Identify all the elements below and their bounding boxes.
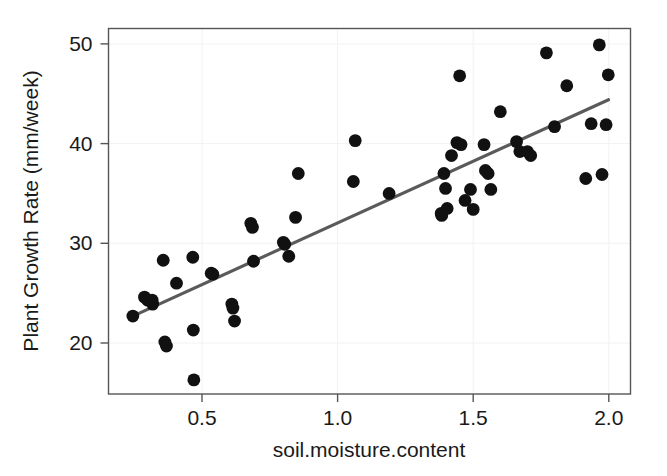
data-point: [186, 251, 199, 264]
data-point: [548, 120, 561, 133]
data-point: [187, 373, 200, 386]
y-tick-label: 30: [69, 231, 92, 254]
x-tick-label: 0.5: [187, 406, 216, 429]
x-axis-title: soil.moisture.content: [273, 438, 466, 461]
data-point: [445, 149, 458, 162]
data-point: [349, 134, 362, 147]
data-point: [278, 238, 291, 251]
data-point: [441, 202, 454, 215]
x-tick-label: 2.0: [594, 406, 623, 429]
data-point: [227, 302, 240, 315]
y-tick-label: 50: [69, 32, 92, 55]
plot-canvas: 0.51.01.52.0 20304050 soil.moisture.cont…: [0, 0, 667, 476]
data-point: [494, 105, 507, 118]
data-point: [438, 167, 451, 180]
data-point: [126, 310, 139, 323]
data-point: [602, 68, 615, 81]
data-point: [347, 175, 360, 188]
data-point: [464, 183, 477, 196]
data-point: [187, 324, 200, 337]
data-point: [540, 46, 553, 59]
data-point: [289, 211, 302, 224]
data-point: [600, 118, 613, 131]
x-tick-label: 1.0: [323, 406, 352, 429]
figure-background: [0, 0, 667, 476]
data-point: [524, 149, 537, 162]
data-point: [579, 172, 592, 185]
data-point: [228, 315, 241, 328]
data-point: [467, 203, 480, 216]
data-point: [146, 298, 159, 311]
data-point: [560, 79, 573, 92]
data-point: [170, 277, 183, 290]
data-point: [247, 255, 260, 268]
data-point: [292, 167, 305, 180]
data-point: [160, 340, 173, 353]
data-point: [478, 138, 491, 151]
data-point: [455, 138, 468, 151]
y-axis-title: Plant Growth Rate (mm/week): [19, 70, 42, 351]
data-point: [157, 254, 170, 267]
data-point: [453, 69, 466, 82]
data-point: [593, 39, 606, 52]
data-point: [484, 183, 497, 196]
data-point: [383, 187, 396, 200]
data-point: [482, 167, 495, 180]
data-point: [585, 117, 598, 130]
x-tick-label: 1.5: [459, 406, 488, 429]
y-tick-label: 40: [69, 132, 92, 155]
data-point: [439, 182, 452, 195]
data-point: [246, 221, 259, 234]
scatter-plot-figure: 0.51.01.52.0 20304050 soil.moisture.cont…: [0, 0, 667, 476]
y-tick-label: 20: [69, 331, 92, 354]
data-point: [206, 268, 219, 281]
data-point: [282, 250, 295, 263]
data-point: [596, 168, 609, 181]
